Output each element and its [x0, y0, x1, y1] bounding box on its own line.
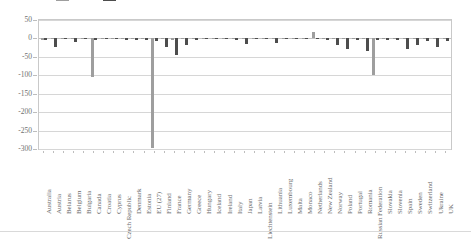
x-axis-tick-label: Austria: [56, 194, 64, 214]
y-axis-tick-label: -250: [18, 127, 32, 135]
y-axis-tick-label: -150: [18, 90, 32, 98]
bar: [195, 38, 198, 39]
bar: [305, 38, 308, 39]
x-axis-tick-mark: [334, 151, 335, 153]
x-axis-tick-mark: [133, 151, 134, 153]
legend-item: Series 2: [103, 0, 143, 3]
bar: [155, 38, 158, 40]
bar: [225, 38, 228, 39]
x-axis-tick-label: New Zealand: [327, 178, 335, 214]
x-axis-tick-label: Hungary: [206, 190, 214, 214]
bar: [54, 38, 57, 46]
bar: [245, 38, 248, 44]
x-axis-tick-mark: [53, 151, 54, 153]
x-axis-tick-mark: [314, 151, 315, 153]
bar: [436, 38, 439, 47]
x-axis-tick-label: Iceland: [216, 194, 224, 214]
x-axis-tick-label: Denmark: [136, 189, 144, 214]
x-axis-tick-label: Malta: [297, 198, 305, 214]
bar: [336, 38, 339, 44]
bar: [346, 38, 349, 48]
bar: [151, 38, 154, 148]
x-axis-tick-mark: [355, 151, 356, 153]
x-axis-tick-mark: [214, 151, 215, 153]
x-axis-tick-mark: [164, 151, 165, 153]
bar: [64, 38, 67, 39]
y-axis-tick-mark: [33, 75, 37, 76]
y-axis-tick-label: -300: [18, 145, 32, 153]
bar: [366, 38, 369, 51]
x-axis-tick-mark: [103, 151, 104, 153]
x-axis-tick-label: Portugal: [357, 191, 365, 214]
bar: [44, 38, 47, 40]
legend-swatch-icon: [56, 0, 69, 1]
y-axis-tick-mark: [33, 38, 37, 39]
x-axis-tick-label: Lithuania: [277, 188, 285, 214]
x-axis-tick-mark: [435, 151, 436, 153]
bar: [396, 38, 399, 39]
bar: [205, 38, 208, 39]
x-axis-tick-label: Luxembourg: [287, 179, 295, 214]
x-axis-tick-mark: [43, 151, 44, 153]
x-axis-tick-mark: [63, 151, 64, 153]
bar: [285, 38, 288, 39]
y-axis-tick-mark: [33, 94, 37, 95]
x-axis-tick-mark: [365, 151, 366, 153]
x-axis-tick-mark: [184, 151, 185, 153]
x-axis-tick-mark: [425, 151, 426, 153]
x-axis-tick-mark: [344, 151, 345, 153]
x-axis-tick-label: Finland: [166, 193, 174, 214]
bar: [235, 38, 238, 39]
bar: [372, 38, 375, 74]
x-axis-tick-label: Romania: [367, 189, 375, 214]
x-axis-tick-label: Japan: [247, 199, 255, 214]
bar: [406, 38, 409, 49]
chart-page: Series 1Series 2 500-50-100-150-200-250-…: [0, 0, 471, 242]
x-axis-tick-label: Liechtenstein: [267, 203, 275, 239]
bar: [135, 38, 138, 39]
x-axis-tick-mark: [304, 151, 305, 153]
x-axis-tick-label: Australia: [46, 189, 54, 214]
x-axis-tick-label: France: [176, 196, 184, 214]
bar: [115, 38, 118, 39]
bar: [326, 38, 329, 39]
x-axis-tick-mark: [324, 151, 325, 153]
x-axis-tick-label: Switzerland: [427, 182, 435, 214]
x-axis-tick-mark: [93, 151, 94, 153]
x-axis-tick-label: Bulgaria: [86, 191, 94, 214]
bar: [91, 38, 94, 76]
y-axis-tick-label: 0: [28, 34, 32, 42]
x-axis-tick-mark: [415, 151, 416, 153]
x-axis-tick-label: Norway: [337, 192, 345, 214]
x-axis-tick-label: Estonia: [146, 194, 154, 214]
plot-area: [38, 19, 452, 150]
x-axis-tick-mark: [395, 151, 396, 153]
chart-legend: Series 1Series 2: [0, 0, 471, 9]
x-axis-tick-label: Greece: [196, 195, 204, 214]
x-axis-tick-mark: [405, 151, 406, 153]
x-axis-tick-mark: [264, 151, 265, 153]
x-axis-tick-label: Croatia: [106, 194, 114, 214]
x-axis-tick-mark: [144, 151, 145, 153]
x-axis-tick-mark: [194, 151, 195, 153]
x-axis-tick-mark: [244, 151, 245, 153]
bar: [416, 38, 419, 45]
bar: [316, 38, 319, 39]
x-axis-tick-mark: [445, 151, 446, 153]
bar: [386, 38, 389, 40]
y-axis-labels: 500-50-100-150-200-250-300: [0, 19, 36, 150]
x-axis-tick-label: Ireland: [227, 195, 235, 214]
x-axis-tick-mark: [204, 151, 205, 153]
bar: [295, 38, 298, 39]
x-axis-tick-mark: [113, 151, 114, 153]
legend-label: Series 2: [119, 0, 143, 3]
bar: [265, 38, 268, 39]
bar: [426, 38, 429, 41]
y-axis-tick-mark: [33, 149, 37, 150]
bar: [165, 38, 168, 47]
x-axis-tick-label: Sweden: [417, 192, 425, 214]
x-axis-tick-mark: [294, 151, 295, 153]
x-axis-tick-mark: [375, 151, 376, 153]
x-axis-tick-label: Slovakia: [387, 190, 395, 214]
x-axis-tick-label: Germany: [186, 189, 194, 214]
